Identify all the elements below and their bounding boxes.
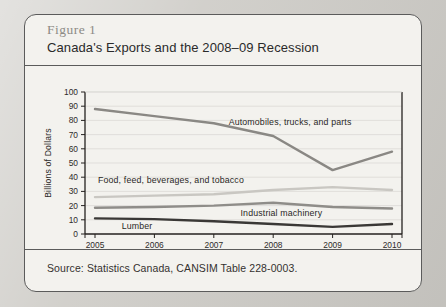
figure-panel: Figure 1 Canada's Exports and the 2008–0…	[24, 14, 422, 292]
y-tick-label: 30	[69, 186, 79, 196]
series-line-food-feed-beverages-and-tobacco	[95, 187, 392, 197]
line-chart: 0102030405060708090100Billions of Dollar…	[25, 66, 422, 251]
screenshot-root: Figure 1 Canada's Exports and the 2008–0…	[0, 0, 446, 307]
y-tick-label: 100	[64, 87, 78, 97]
y-tick-label: 80	[69, 115, 79, 125]
y-axis-label: Billions of Dollars	[43, 128, 53, 198]
series-label-food-feed-beverages-and-tobacco: Food, feed, beverages, and tobacco	[98, 175, 244, 185]
y-tick-label: 10	[69, 215, 79, 225]
y-tick-label: 70	[69, 130, 79, 140]
figure-footer: Source: Statistics Canada, CANSIM Table …	[25, 249, 421, 291]
source-note: Source: Statistics Canada, CANSIM Table …	[47, 262, 421, 274]
y-tick-label: 50	[69, 158, 79, 168]
figure-number: Figure 1	[47, 21, 421, 38]
y-tick-label: 60	[69, 144, 79, 154]
y-tick-label: 20	[69, 201, 79, 211]
series-label-industrial-machinery: Industrial machinery	[241, 208, 323, 218]
y-tick-label: 90	[69, 101, 79, 111]
series-label-lumber: Lumber	[122, 221, 153, 231]
figure-header: Figure 1 Canada's Exports and the 2008–0…	[25, 15, 421, 66]
figure-title: Canada's Exports and the 2008–09 Recessi…	[47, 38, 421, 58]
y-tick-label: 40	[69, 172, 79, 182]
chart-area: 0102030405060708090100Billions of Dollar…	[25, 66, 421, 251]
series-label-automobiles-trucks-and-parts: Automobiles, trucks, and parts	[229, 117, 352, 127]
y-tick-label: 0	[73, 229, 78, 239]
